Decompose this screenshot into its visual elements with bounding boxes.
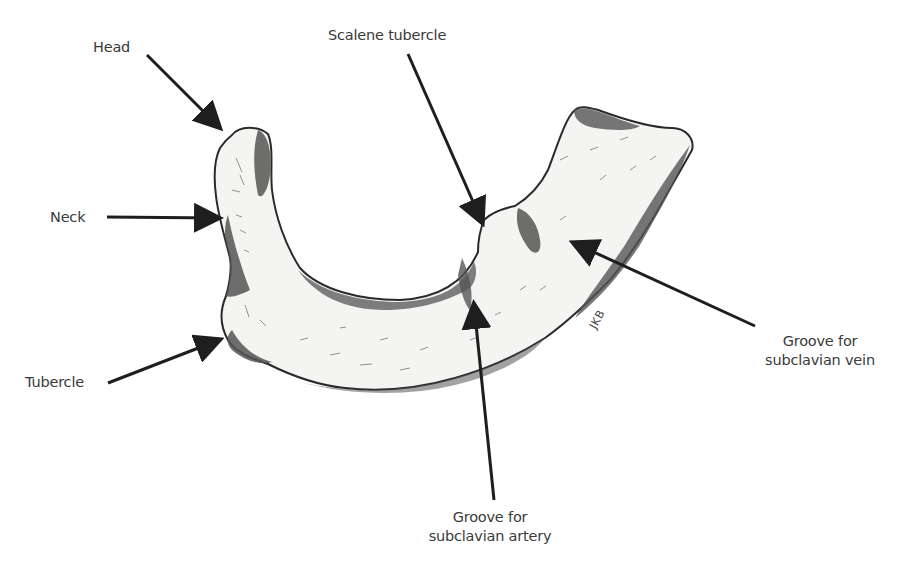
rib-diagram: Head Neck Tubercle Scalene tubercle Groo… [0, 0, 898, 575]
label-head: Head [93, 38, 130, 57]
rib-illustration [0, 0, 898, 575]
label-groove-subclavian-vein: Groove for subclavian vein [760, 332, 880, 370]
label-tubercle: Tubercle [25, 373, 84, 392]
arrow-neck [107, 217, 218, 218]
label-neck: Neck [50, 208, 85, 227]
arrow-head [147, 55, 219, 127]
first-rib-bone [210, 100, 700, 400]
arrow-tubercle [108, 340, 219, 383]
label-scalene-tubercle: Scalene tubercle [328, 26, 446, 45]
label-groove-subclavian-artery: Groove for subclavian artery [420, 508, 560, 546]
